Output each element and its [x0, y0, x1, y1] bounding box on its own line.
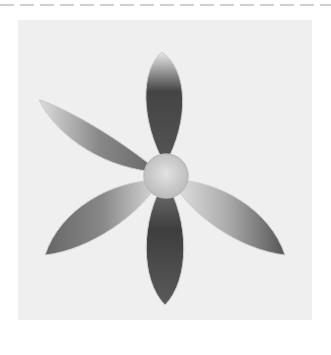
flower-center — [144, 154, 188, 198]
embroidery-image — [0, 0, 331, 355]
flower-illustration — [0, 0, 331, 355]
